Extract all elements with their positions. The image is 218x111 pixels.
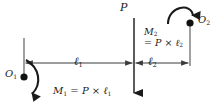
point-label-O1-subscript: 1 xyxy=(13,73,17,80)
moment-M2-expression: = P × ℓ2 xyxy=(144,38,183,49)
statics-moment-diagram: P O1 O2 ℓ1 ℓ2 M1 = P × ℓ1 M2 = P × ℓ2 xyxy=(0,0,218,111)
moment-M1-symbol: M xyxy=(53,85,63,96)
dimension-label-l2-subscript: 2 xyxy=(153,61,157,69)
moment-M2-equals: = xyxy=(144,37,155,48)
point-label-O1: O1 xyxy=(5,69,17,80)
point-label-O2-subscript: 2 xyxy=(206,19,210,26)
clockwise-moment-arc-icon-left xyxy=(26,60,38,94)
pivot-point-dot-icon-left xyxy=(20,73,27,80)
point-label-O1-symbol: O xyxy=(5,68,13,79)
moment-M1-equals: = xyxy=(67,85,82,96)
force-label-P: P xyxy=(120,2,127,14)
moment-equation-M2: M2 = P × ℓ2 xyxy=(144,27,183,48)
moment-equation-M1: M1 = P × ℓ1 xyxy=(53,86,112,97)
dimension-label-l1: ℓ1 xyxy=(74,56,83,69)
moment-M1-length-subscript: 1 xyxy=(108,90,112,97)
moment-M2-length-subscript: 2 xyxy=(179,42,183,48)
dimension-label-l1-subscript: 1 xyxy=(79,61,83,69)
point-label-O2-symbol: O xyxy=(198,14,206,25)
pivot-point-dot-icon-right xyxy=(186,19,193,26)
dimension-label-l2: ℓ2 xyxy=(148,56,157,69)
moment-M2-symbol: M xyxy=(144,26,154,37)
moment-M2-times: × xyxy=(161,37,175,48)
point-label-O2: O2 xyxy=(198,15,210,26)
moment-M1-times: × xyxy=(89,85,104,96)
moment-M1-force: P xyxy=(82,85,89,96)
